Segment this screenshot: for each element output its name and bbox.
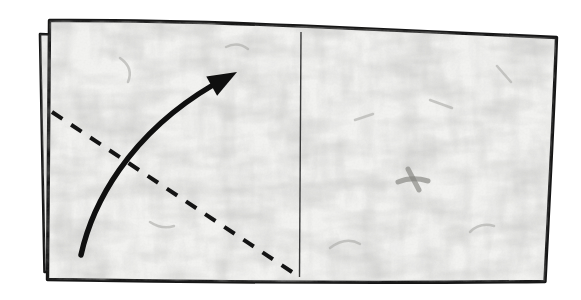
origami-step-diagram <box>0 0 581 300</box>
origami-diagram-canvas <box>0 0 581 300</box>
